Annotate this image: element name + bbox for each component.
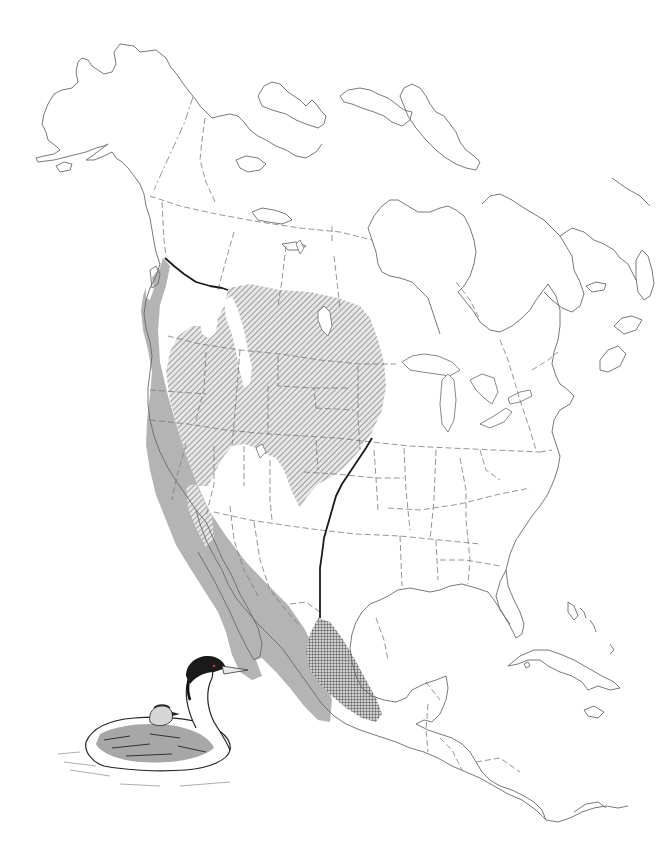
range-map [0,0,668,858]
breeding-range [166,284,386,548]
grebe-illustration [58,656,248,786]
